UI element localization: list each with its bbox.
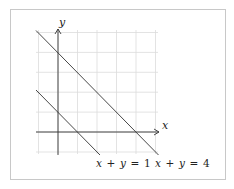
coordinate-plane: x y x + y = 1 x + y = 4 (0, 0, 234, 189)
figure-frame (11, 10, 226, 180)
diagram-canvas: x y x + y = 1 x + y = 4 (0, 0, 234, 189)
x-axis-label: x (162, 119, 169, 132)
y-axis-label: y (58, 16, 66, 29)
